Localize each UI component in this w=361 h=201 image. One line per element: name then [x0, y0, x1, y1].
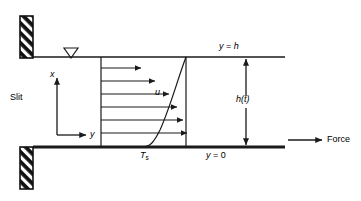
slit-flow-diagram: Slit x y u Ts h(t) y = h y = 0 Force — [0, 0, 361, 201]
y-axis-label: y — [90, 130, 95, 139]
coordinate-axes — [57, 78, 86, 135]
hatched-wall-icon — [20, 147, 33, 189]
slit-label: Slit — [10, 93, 23, 102]
hatched-wall-icon — [20, 16, 33, 58]
top-boundary-equals: = — [224, 41, 234, 51]
top-boundary-value: h — [234, 41, 239, 51]
bottom-boundary-label: y = 0 — [206, 151, 226, 160]
gap-height-label: h(t) — [236, 95, 250, 104]
top-boundary-label: y = h — [219, 42, 239, 51]
bottom-boundary-equals: = — [211, 150, 221, 160]
velocity-profile-arrows — [101, 68, 187, 133]
velocity-label: u — [155, 88, 160, 97]
surface-temperature-subscript: s — [146, 154, 149, 161]
x-axis-label: x — [50, 70, 55, 79]
surface-temperature-symbol: T — [140, 150, 146, 160]
force-label: Force — [327, 135, 350, 144]
lower-wall-block — [20, 147, 33, 189]
upper-wall-block — [20, 16, 33, 58]
gap-height-argument: (t) — [241, 94, 250, 104]
diagram-canvas — [0, 0, 361, 201]
bottom-boundary-value: 0 — [221, 150, 226, 160]
surface-temperature-label: Ts — [140, 151, 149, 160]
